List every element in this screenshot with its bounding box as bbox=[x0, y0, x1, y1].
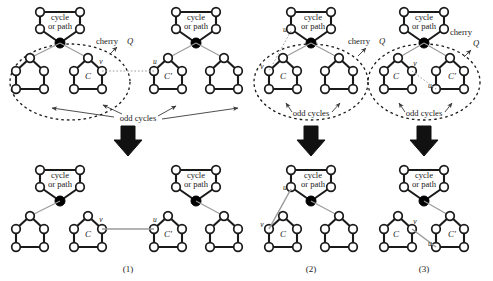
panel-1-bottom: cycle or path C cycle or path C' v u (1) bbox=[12, 166, 243, 274]
figure-root: cycle or path C cycle or path C' v bbox=[0, 0, 493, 281]
panel-caption: (3) bbox=[419, 264, 430, 274]
vertex-label-v: v bbox=[99, 57, 103, 66]
odd-cycles-annotation-label: odd cycles bbox=[406, 108, 443, 118]
cycle-label-Cprime: C' bbox=[164, 229, 173, 239]
cycle-label-Cprime: C' bbox=[448, 229, 457, 239]
panel-1-top: cycle or path C cycle or path C' v bbox=[10, 8, 242, 123]
cherry-leader-line bbox=[464, 50, 471, 57]
diagram-canvas: cycle or path C cycle or path C' v bbox=[0, 0, 493, 281]
odd-cycle bbox=[12, 54, 49, 94]
vertex-label-u: u bbox=[153, 215, 157, 224]
cherry-annotation-label: cherry bbox=[96, 36, 119, 46]
cherry-annotation-label: cherry bbox=[348, 36, 371, 46]
cherry-annotation-symbol: Q bbox=[127, 36, 134, 46]
panel-3-top: cycle or path C C' v u cherry Q odd cycl… bbox=[368, 8, 480, 120]
cycle-or-path-label-line2: or path bbox=[184, 21, 209, 31]
transform-arrow-1 bbox=[114, 126, 142, 156]
cherry-leader-line bbox=[358, 48, 366, 56]
cherry-annotation-symbol: Q bbox=[379, 36, 386, 46]
odd-cycles-leader-line bbox=[286, 103, 292, 112]
cycle-label-C: C bbox=[85, 229, 92, 239]
vertex-label-u: u bbox=[283, 183, 287, 192]
cycle-or-path-label-line2: or path bbox=[412, 21, 437, 31]
panel-caption: (2) bbox=[306, 264, 317, 274]
dotted-link-u-v bbox=[269, 31, 291, 71]
vertex-label-u: u bbox=[283, 25, 287, 34]
odd-cycles-leader-line bbox=[445, 103, 452, 112]
transform-arrow-2 bbox=[297, 126, 325, 156]
vertex-label-u: u bbox=[428, 81, 432, 90]
odd-cycle bbox=[321, 54, 358, 94]
odd-cycles-annotation-label: odd cycles bbox=[293, 108, 330, 118]
odd-cycles-leader-line bbox=[399, 103, 405, 112]
panel-2-bottom: cycle or path C u v (2) bbox=[260, 166, 357, 274]
cycle-or-path-label-line2: or path bbox=[184, 179, 209, 189]
odd-cycles-annotation-label: odd cycles bbox=[120, 113, 157, 123]
cycle-label-Cprime: C' bbox=[164, 71, 173, 81]
vertex-label-v: v bbox=[260, 220, 264, 229]
panel-3-bottom: cycle or path C C' v u (3) bbox=[380, 166, 469, 274]
cherry-annotation-symbol: Q bbox=[473, 38, 480, 48]
new-edge-u-v bbox=[269, 189, 291, 229]
cycle-or-path-label-line2: or path bbox=[412, 179, 437, 189]
odd-cycle bbox=[206, 212, 243, 252]
vertex-label-u: u bbox=[428, 239, 432, 248]
transform-arrow-3 bbox=[410, 126, 438, 156]
cycle-label-C: C bbox=[393, 229, 400, 239]
cycle-or-path-label-line2: or path bbox=[301, 21, 326, 31]
odd-cycles-leader-line bbox=[52, 108, 114, 117]
odd-cycles-leader-line bbox=[158, 106, 176, 116]
cherry-leader-line bbox=[110, 47, 117, 54]
vertex-label-u: u bbox=[153, 57, 157, 66]
panel-2-top: cycle or path C u v cherry Q odd cycles bbox=[254, 8, 386, 120]
odd-cycle bbox=[12, 212, 49, 252]
cycle-or-path-label-line2: or path bbox=[48, 21, 73, 31]
odd-cycles-leader-line bbox=[162, 108, 238, 119]
odd-cycles-leader-line bbox=[332, 103, 340, 112]
odd-cycle bbox=[321, 212, 358, 252]
odd-cycle bbox=[206, 54, 243, 94]
cycle-label-Cprime: C' bbox=[448, 71, 457, 81]
cycle-label-C: C bbox=[280, 71, 287, 81]
vertex-label-v: v bbox=[413, 59, 417, 68]
vertex-label-v: v bbox=[99, 215, 103, 224]
cycle-label-C: C bbox=[85, 71, 92, 81]
cycle-or-path-label-line2: or path bbox=[48, 179, 73, 189]
cycle-label-C: C bbox=[393, 71, 400, 81]
panel-caption: (1) bbox=[123, 264, 134, 274]
cycle-or-path-label-line2: or path bbox=[301, 179, 326, 189]
cherry-annotation-label: cherry bbox=[450, 27, 473, 37]
cycle-label-C: C bbox=[280, 229, 287, 239]
vertex-label-v: v bbox=[260, 62, 264, 71]
vertex-label-v: v bbox=[413, 217, 417, 226]
